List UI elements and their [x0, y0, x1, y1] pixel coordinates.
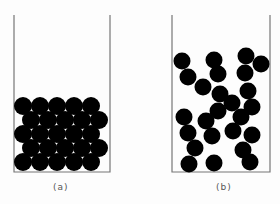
sphere	[48, 153, 66, 171]
sphere	[240, 83, 257, 100]
sphere	[181, 156, 198, 173]
sphere	[195, 79, 212, 96]
sphere	[253, 56, 270, 73]
sphere	[210, 66, 227, 83]
sphere	[14, 153, 32, 171]
panel-a-container	[14, 15, 110, 172]
sphere	[242, 154, 259, 171]
sphere	[174, 53, 191, 70]
sphere	[31, 153, 49, 171]
sphere	[187, 140, 204, 157]
sphere	[225, 123, 242, 140]
sphere	[82, 153, 100, 171]
figure-canvas	[0, 0, 280, 204]
sphere	[176, 109, 193, 126]
sphere	[198, 113, 215, 130]
sphere	[180, 69, 197, 86]
sphere	[65, 153, 83, 171]
sphere	[204, 128, 221, 145]
sphere	[180, 125, 197, 142]
panel-b-label: (b)	[216, 182, 232, 192]
sphere	[206, 155, 223, 172]
panel-b-container	[172, 15, 270, 173]
sphere	[244, 127, 261, 144]
sphere	[238, 48, 255, 65]
panel-a-label: (a)	[53, 182, 69, 192]
sphere	[237, 65, 254, 82]
